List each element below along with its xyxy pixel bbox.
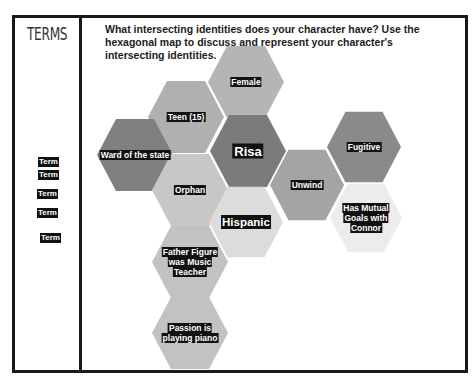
hexagon-label-female: Female [230, 77, 261, 87]
hexagon-label-unwind: Unwind [291, 180, 324, 190]
hexagon-label-hispanic: Hispanic [221, 215, 271, 229]
hexagonal-map [0, 0, 473, 379]
hexagon-label-line: Fugitive [347, 142, 382, 152]
hexagon-label-risa: Risa [232, 144, 263, 159]
hexagon-label-line: Father Figure [162, 247, 218, 257]
hexagon-label-line: Hispanic [221, 215, 271, 229]
hexagon-label-line: Connor [350, 223, 382, 233]
hexagon-label-line: Teen (15) [167, 112, 206, 122]
hexagon-label-ward: Ward of the state [100, 150, 171, 160]
hexagon-label-father: Father Figurewas MusicTeacher [162, 247, 218, 277]
hexagon-label-line: Ward of the state [100, 150, 171, 160]
hexagon-label-orphan: Orphan [174, 185, 206, 195]
hexagon-label-line: Passion is [168, 323, 212, 333]
hexagon-label-line: Has Mutual [342, 203, 389, 213]
hexagon-label-line: Teacher [173, 267, 207, 277]
hexagon-label-line: Female [230, 77, 261, 87]
hexagon-label-line: playing piano [162, 333, 219, 343]
hexagon-label-line: Unwind [291, 180, 324, 190]
hexagon-label-line: Orphan [174, 185, 206, 195]
hexagon-label-passion: Passion isplaying piano [162, 323, 219, 343]
hexagon-label-fugitive: Fugitive [347, 142, 382, 152]
hexagon-label-line: Goals with [344, 213, 389, 223]
hexagon-label-line: Risa [232, 144, 263, 159]
hexagon-label-teen: Teen (15) [167, 112, 206, 122]
hexagon-label-line: was Music [168, 257, 213, 267]
hexagon-label-mutual: Has MutualGoals withConnor [342, 203, 389, 233]
